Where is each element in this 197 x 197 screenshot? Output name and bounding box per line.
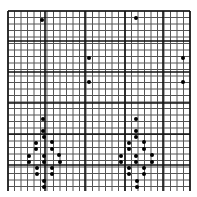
grid-dot <box>35 166 39 170</box>
grid-dot <box>57 153 61 157</box>
grid-dot <box>58 160 62 164</box>
grid-dot <box>181 80 185 84</box>
grid-dot <box>87 80 91 84</box>
grid-dot <box>34 147 38 151</box>
grid-dot <box>134 154 138 158</box>
grid-dot <box>42 135 46 139</box>
grid-dot <box>135 179 139 183</box>
grid-dot <box>134 129 138 133</box>
grid-dot <box>50 147 54 151</box>
grid-dot <box>27 160 31 164</box>
grid-dot <box>42 185 46 189</box>
grid-dot <box>134 117 138 121</box>
grid-dot <box>50 140 54 144</box>
grid-dot <box>127 141 131 145</box>
grid-dot <box>134 16 138 20</box>
grid-dot <box>42 179 46 183</box>
grid-dot <box>27 154 31 158</box>
grid-dot <box>41 129 45 133</box>
grid-dot <box>127 147 131 151</box>
grid-dot <box>127 172 131 176</box>
grid-dot <box>142 140 146 144</box>
grid-dot <box>150 160 154 164</box>
grid-dot <box>142 172 146 176</box>
grid-dot <box>142 147 146 151</box>
grid-dot <box>119 160 123 164</box>
grid-dot <box>135 185 139 189</box>
grid-dot <box>35 172 39 176</box>
grid-dot <box>42 154 46 158</box>
grid-dot <box>41 117 45 121</box>
grid-dot <box>142 166 146 170</box>
grid-dot <box>50 172 54 176</box>
grid-dot <box>42 160 46 164</box>
grid-dot <box>34 141 38 145</box>
grid-dot <box>50 166 54 170</box>
grid-dot <box>134 160 138 164</box>
grid-dot <box>87 56 91 60</box>
grid-dot <box>150 153 154 157</box>
grid-dot <box>119 154 123 158</box>
grid-dot <box>181 56 185 60</box>
dot-grid-diagram <box>0 0 197 197</box>
grid-dot <box>134 135 138 139</box>
grid-dot <box>127 166 131 170</box>
grid-dot <box>40 18 44 22</box>
